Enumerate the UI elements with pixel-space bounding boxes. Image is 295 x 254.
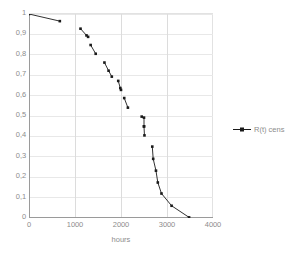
x-axis-tick-label: 4000 [193,221,233,229]
y-axis-tick-label: 0,7 [2,70,26,78]
x-axis-tick-label: 0 [9,221,49,229]
plot-area [29,13,213,217]
y-axis-tick-label: 0,4 [2,131,26,139]
x-axis-tick-label: 2000 [101,221,141,229]
y-axis-tick-label: 1 [2,9,26,17]
y-axis-tick-labels: 00,10,20,30,40,50,60,70,80,91 [0,0,26,254]
y-axis-tick-label: 0,2 [2,172,26,180]
x-axis-tick-label: 1000 [55,221,95,229]
y-axis-tick-label: 0,5 [2,111,26,119]
plot-svg [29,14,213,218]
y-axis-tick-label: 0 [2,213,26,221]
legend: R(t) cens [233,125,284,134]
y-axis-tick-label: 0,6 [2,91,26,99]
x-axis-tick-label: 3000 [147,221,187,229]
y-axis-tick-label: 0,9 [2,29,26,37]
x-axis-tick-labels: 01000200030004000 [0,221,295,233]
chart-container: 00,10,20,30,40,50,60,70,80,91 0100020003… [0,0,295,254]
legend-line-marker-icon [233,125,251,134]
y-axis-tick-label: 0,1 [2,193,26,201]
y-axis-tick-label: 0,8 [2,50,26,58]
y-axis-tick-label: 0,3 [2,152,26,160]
legend-label-R-t-cens: R(t) cens [254,125,284,134]
x-axis-title: hours [29,235,213,244]
